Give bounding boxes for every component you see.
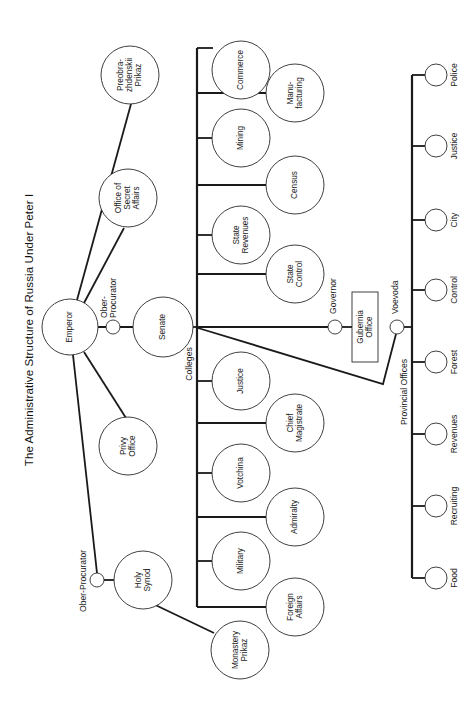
college-state-revenues: State Revenues	[212, 206, 270, 264]
svg-text:Emperor: Emperor	[65, 311, 74, 343]
college-mining: Mining	[212, 109, 270, 167]
svg-text:State: State	[286, 264, 295, 284]
college-foreign-affairs: Foreign Affairs	[266, 578, 324, 636]
svg-text:Census: Census	[290, 171, 299, 199]
svg-text:Office: Office	[128, 435, 137, 457]
provincial-office-forest: Forest	[425, 349, 459, 374]
node-preobrazhenskii-prikaz: Preobra- zhdenskii Prikaz	[101, 46, 159, 104]
svg-text:Control: Control	[449, 276, 459, 304]
svg-text:Secret: Secret	[123, 185, 132, 209]
svg-text:zhdenskii: zhdenskii	[125, 58, 134, 92]
svg-text:Revenues: Revenues	[241, 217, 250, 254]
svg-text:Justice: Justice	[236, 368, 245, 394]
svg-text:Votchina: Votchina	[236, 457, 245, 489]
node-ober-procurator-senate: Ober- Procurator	[99, 278, 120, 334]
svg-text:Justice: Justice	[449, 132, 459, 159]
svg-text:Procurator: Procurator	[108, 278, 118, 318]
svg-text:Magistrate: Magistrate	[295, 403, 304, 442]
svg-text:Chief: Chief	[286, 413, 295, 433]
node-ober-procurator-synod: Ober-Procurator	[78, 550, 104, 612]
svg-text:Governor: Governor	[328, 278, 338, 314]
college-commerce: Commerce	[212, 41, 270, 99]
svg-text:Food: Food	[449, 568, 459, 588]
college-justice: Justice	[212, 352, 270, 410]
provincial-office-police: Police	[425, 63, 459, 87]
colleges-label: Colleges	[184, 347, 194, 380]
node-emperor: Emperor	[42, 299, 98, 355]
svg-text:Recruiting: Recruiting	[449, 486, 459, 525]
svg-text:Forest: Forest	[449, 349, 459, 374]
svg-text:Senate: Senate	[158, 314, 167, 340]
svg-text:Admiralty: Admiralty	[290, 499, 299, 534]
node-office-of-secret-affairs: Office of Secret Affairs	[99, 169, 157, 227]
svg-text:Privy: Privy	[119, 436, 128, 455]
svg-text:Office of: Office of	[114, 182, 123, 213]
provincial-office-justice: Justice	[425, 132, 459, 159]
svg-text:Gubernia: Gubernia	[356, 310, 365, 344]
svg-text:Prikaz: Prikaz	[240, 639, 249, 662]
svg-text:facturing: facturing	[295, 77, 304, 109]
svg-text:Ober-Procurator: Ober-Procurator	[78, 550, 88, 612]
node-voevoda: Voevoda	[390, 280, 404, 334]
node-privy-office: Privy Office	[99, 417, 157, 475]
svg-text:Voevoda: Voevoda	[390, 280, 400, 314]
node-holy-synod: Holy Synod	[114, 551, 172, 609]
provincial-office-recruiting: Recruiting	[425, 486, 459, 525]
svg-text:Police: Police	[449, 63, 459, 87]
svg-text:Control: Control	[295, 261, 304, 288]
svg-text:Prikaz: Prikaz	[134, 64, 143, 87]
provincial-office-revenues: Revenues	[425, 415, 459, 454]
college-census: Census	[266, 156, 324, 214]
svg-text:Commerce: Commerce	[236, 50, 245, 90]
college-military: Military	[212, 532, 270, 590]
college-admiralty: Admiralty	[266, 488, 324, 546]
svg-text:Monastery: Monastery	[231, 630, 240, 669]
svg-text:Military: Military	[236, 547, 245, 574]
provincial-office-control: Control	[425, 276, 459, 304]
svg-text:Manu-: Manu-	[286, 81, 295, 104]
node-gubernia-office: Gubernia Office	[352, 292, 378, 362]
svg-text:Holy: Holy	[134, 571, 143, 588]
provincial-office-city: City	[425, 209, 459, 231]
node-governor: Governor	[328, 278, 342, 334]
college-state-control: State Control	[266, 245, 324, 303]
college-votchina: Votchina	[212, 444, 270, 502]
college-manufacturing: Manu- facturing	[266, 64, 324, 122]
diagram-title: The Administrative Structure of Russia U…	[23, 194, 35, 466]
provincial-offices-label: Provincial Offices	[399, 359, 409, 425]
svg-text:Preobra-: Preobra-	[116, 59, 125, 91]
svg-text:Affairs: Affairs	[295, 595, 304, 618]
svg-text:Office: Office	[365, 316, 374, 338]
college-chief-magistrate: Chief Magistrate	[266, 394, 324, 452]
org-chart: The Administrative Structure of Russia U…	[0, 0, 472, 708]
provincial-office-food: Food	[425, 567, 459, 589]
svg-text:City: City	[449, 212, 459, 228]
node-monastery-prikaz: Monastery Prikaz	[211, 621, 269, 679]
svg-text:Affairs: Affairs	[132, 186, 141, 209]
svg-text:Synod: Synod	[143, 568, 152, 592]
svg-text:Revenues: Revenues	[449, 415, 459, 454]
svg-text:Mining: Mining	[236, 125, 245, 150]
svg-text:Foreign: Foreign	[286, 593, 295, 621]
svg-text:State: State	[232, 225, 241, 245]
